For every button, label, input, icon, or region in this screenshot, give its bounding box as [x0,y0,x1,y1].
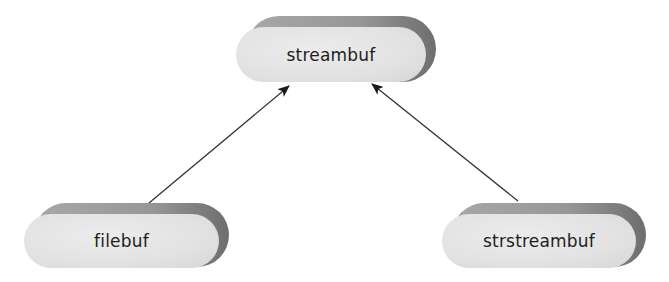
node-streambuf[interactable]: streambuf [236,16,436,84]
node-streambuf-label: streambuf [287,45,376,65]
node-filebuf-label: filebuf [94,231,149,251]
edge-filebuf-to-streambuf [149,86,289,203]
node-filebuf[interactable]: filebuf [24,203,229,271]
inheritance-diagram: streambuf filebuf strstreambuf [0,0,669,282]
node-streambuf-face: streambuf [236,27,426,82]
node-strstreambuf[interactable]: strstreambuf [442,203,646,271]
node-strstreambuf-face: strstreambuf [442,214,636,268]
edge-strstreambuf-to-streambuf [372,84,518,201]
node-strstreambuf-label: strstreambuf [483,231,595,251]
node-filebuf-face: filebuf [24,214,219,268]
